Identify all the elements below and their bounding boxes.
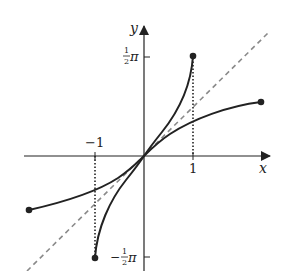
svg-text:π: π bbox=[127, 250, 137, 265]
endpoint-dot bbox=[26, 207, 33, 214]
y-tick-label-neg-half-pi: − 1 2 π bbox=[110, 247, 137, 267]
endpoint-dot bbox=[258, 99, 265, 106]
diagram-canvas: y x −1 1 1 2 π − 1 2 π bbox=[0, 0, 289, 271]
y-tick-label-half-pi: 1 2 π bbox=[123, 46, 139, 66]
svg-text:π: π bbox=[129, 49, 139, 64]
svg-text:−: − bbox=[110, 250, 120, 264]
svg-text:1: 1 bbox=[124, 46, 129, 55]
y-axis-label: y bbox=[129, 20, 139, 36]
x-axis-label: x bbox=[259, 160, 267, 176]
endpoint-dot bbox=[92, 255, 99, 262]
endpoint-dot bbox=[190, 53, 197, 60]
x-tick-label-neg1: −1 bbox=[85, 135, 104, 150]
svg-text:2: 2 bbox=[124, 57, 129, 66]
x-tick-label-1: 1 bbox=[189, 161, 197, 176]
svg-text:1: 1 bbox=[122, 247, 127, 256]
svg-text:2: 2 bbox=[122, 258, 127, 267]
